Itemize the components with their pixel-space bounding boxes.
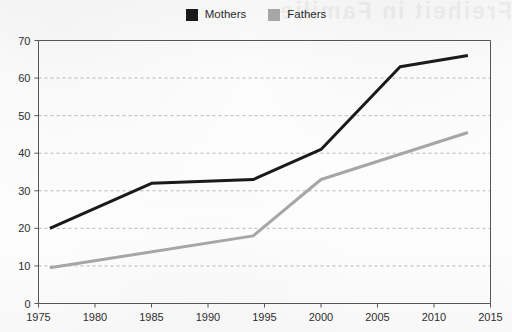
y-tick-label: 20 xyxy=(18,222,30,234)
x-tick-label: 1980 xyxy=(83,311,107,323)
line-chart: 0102030405060701975198019851990199520002… xyxy=(0,0,512,332)
x-tick-label: 1985 xyxy=(139,311,163,323)
x-tick-label: 2005 xyxy=(365,311,389,323)
x-tick-label: 1975 xyxy=(26,311,50,323)
y-tick-label: 50 xyxy=(18,110,30,122)
y-tick-label: 60 xyxy=(18,72,30,84)
x-tick-label: 2015 xyxy=(478,311,502,323)
x-tick-label: 1995 xyxy=(252,311,276,323)
legend-item-mothers: Mothers xyxy=(186,9,247,21)
legend-label-mothers: Mothers xyxy=(205,9,247,21)
y-tick-label: 40 xyxy=(18,147,30,159)
y-tick-label: 70 xyxy=(18,35,30,47)
y-tick-label: 30 xyxy=(18,185,30,197)
x-tick-label: 2000 xyxy=(309,311,333,323)
x-tick-label: 1990 xyxy=(196,311,220,323)
y-tick-label: 10 xyxy=(18,260,30,272)
legend-label-fathers: Fathers xyxy=(287,9,326,21)
legend-item-fathers: Fathers xyxy=(268,9,326,21)
chart-legend: Mothers Fathers xyxy=(0,9,512,21)
chart-svg: 0102030405060701975198019851990199520002… xyxy=(0,0,512,332)
axis-lines xyxy=(39,41,491,304)
data-series xyxy=(50,56,468,268)
x-tick-label: 2010 xyxy=(422,311,446,323)
y-tick-label: 0 xyxy=(24,298,30,310)
legend-swatch-mothers-icon xyxy=(186,9,198,21)
series-line-mothers xyxy=(50,56,468,229)
grid-lines xyxy=(39,78,491,266)
legend-swatch-fathers-icon xyxy=(268,9,280,21)
